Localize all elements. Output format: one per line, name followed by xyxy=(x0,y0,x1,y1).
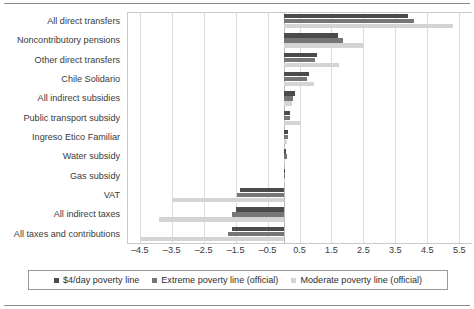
bar xyxy=(284,33,338,37)
legend-label: Extreme poverty line (official) xyxy=(161,275,278,285)
bar-group xyxy=(127,167,472,186)
y-axis-category-labels: All direct transfersNoncontributory pens… xyxy=(0,12,124,244)
y-axis-label-8: Gas subsidy xyxy=(70,167,120,186)
bar xyxy=(284,154,287,158)
y-axis-label-9: VAT xyxy=(104,186,120,205)
legend-swatch-icon xyxy=(54,278,59,283)
x-axis-tick-8: 3.5 xyxy=(389,245,402,255)
bar-group xyxy=(127,89,472,108)
bar xyxy=(284,38,343,42)
x-axis-tick-7: 2.5 xyxy=(357,245,370,255)
bar xyxy=(284,140,288,144)
bar xyxy=(284,179,285,183)
bar-group xyxy=(127,70,472,89)
x-axis-tick-2: –2.5 xyxy=(195,245,213,255)
bar xyxy=(284,130,289,134)
bar-group xyxy=(127,225,472,244)
bar-group xyxy=(127,31,472,50)
y-axis-label-10: All indirect taxes xyxy=(54,205,120,224)
bar xyxy=(236,207,284,211)
y-axis-label-1: Noncontributory pensions xyxy=(17,31,120,50)
x-axis-tick-6: 1.5 xyxy=(325,245,338,255)
bar xyxy=(237,193,283,197)
y-axis-label-4: All indirect subsidies xyxy=(38,89,120,108)
y-axis-label-7: Water subsidy xyxy=(63,147,120,166)
bar xyxy=(284,24,453,28)
figure-bottom-rule xyxy=(4,305,470,306)
chart-legend: $4/day poverty lineExtreme poverty line … xyxy=(28,270,448,290)
bar xyxy=(172,198,284,202)
bar-group xyxy=(127,12,472,31)
legend-item-0[interactable]: $4/day poverty line xyxy=(54,275,139,285)
figure-chart-incidence-by-poverty-line: All direct transfersNoncontributory pens… xyxy=(0,0,474,309)
bar xyxy=(284,77,308,81)
bar xyxy=(284,63,340,67)
bar-group xyxy=(127,109,472,128)
bar xyxy=(232,227,283,231)
bar xyxy=(284,159,286,163)
bar xyxy=(284,149,286,153)
y-axis-label-6: Ingreso Etico Familiar xyxy=(32,128,120,147)
x-axis-tick-1: –3.5 xyxy=(163,245,181,255)
bar xyxy=(284,101,292,105)
y-axis-label-2: Other direct transfers xyxy=(35,51,120,70)
bar xyxy=(284,121,302,125)
legend-item-2[interactable]: Moderate poverty line (official) xyxy=(291,275,422,285)
x-axis-tick-10: 5.5 xyxy=(453,245,466,255)
legend-swatch-icon xyxy=(152,278,157,283)
legend-swatch-icon xyxy=(291,278,296,283)
x-axis-tick-4: –0.5 xyxy=(259,245,277,255)
bar xyxy=(141,237,283,241)
x-axis-tick-3: –1.5 xyxy=(227,245,245,255)
bar-group xyxy=(127,147,472,166)
x-axis-tick-0: –4.5 xyxy=(131,245,149,255)
figure-top-rule xyxy=(4,3,470,4)
bar xyxy=(284,116,290,120)
y-axis-label-0: All direct transfers xyxy=(47,12,120,31)
bar xyxy=(159,217,284,221)
bar xyxy=(284,96,294,100)
legend-item-1[interactable]: Extreme poverty line (official) xyxy=(152,275,278,285)
legend-label: $4/day poverty line xyxy=(63,275,139,285)
y-axis-label-3: Chile Solidario xyxy=(61,70,120,89)
y-axis-label-5: Public transport subsidy xyxy=(23,109,120,128)
bar-group xyxy=(127,128,472,147)
bar xyxy=(284,111,290,115)
bar xyxy=(284,43,364,47)
plot-area xyxy=(127,12,472,244)
bar xyxy=(284,174,285,178)
bar xyxy=(284,14,409,18)
bar xyxy=(284,135,289,139)
x-axis-tick-labels: –4.5–3.5–2.5–1.5–0.50.51.52.53.54.55.5 xyxy=(127,245,472,259)
bar xyxy=(284,91,295,95)
bar xyxy=(284,53,318,57)
bar xyxy=(284,169,285,173)
y-axis-label-11: All taxes and contributions xyxy=(14,225,120,244)
bar xyxy=(284,19,415,23)
bar xyxy=(284,82,314,86)
bar-group xyxy=(127,51,472,70)
bar xyxy=(284,72,310,76)
bar xyxy=(228,232,284,236)
x-axis-tick-5: 0.5 xyxy=(293,245,306,255)
bar xyxy=(284,58,316,62)
bar xyxy=(240,188,283,192)
bar xyxy=(232,212,283,216)
bar-group xyxy=(127,205,472,224)
bar-group xyxy=(127,186,472,205)
legend-label: Moderate poverty line (official) xyxy=(300,275,422,285)
x-axis-tick-9: 4.5 xyxy=(421,245,434,255)
